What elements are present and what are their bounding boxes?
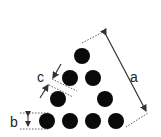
circle-row4-1 bbox=[39, 113, 55, 129]
circle-row4-2 bbox=[62, 113, 78, 129]
circle-row3-left bbox=[50, 91, 66, 107]
label-c: c bbox=[37, 69, 44, 85]
label-a: a bbox=[130, 69, 138, 85]
circle-row2-left bbox=[62, 70, 78, 86]
circles bbox=[39, 48, 124, 129]
circle-row2-right bbox=[85, 70, 101, 86]
label-b: b bbox=[10, 114, 18, 130]
circle-row4-3 bbox=[85, 113, 101, 129]
circle-row3-right bbox=[97, 91, 113, 107]
circle-row1 bbox=[74, 48, 90, 64]
triangle-packing-diagram: a c b bbox=[0, 0, 161, 137]
circle-row4-4 bbox=[108, 113, 124, 129]
